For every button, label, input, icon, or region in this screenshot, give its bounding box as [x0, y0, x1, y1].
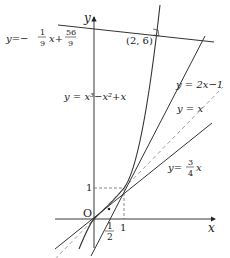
function-graph: y x O 1 1 1 2 (2, 6) y = x³−x²+x y = 2x−…: [0, 0, 230, 258]
label-cubic: y = x³−x²+x: [63, 91, 126, 102]
svg-text:1: 1: [40, 28, 45, 37]
svg-text:x: x: [196, 162, 202, 173]
svg-text:y=: y=: [167, 162, 182, 173]
label-identity: y = x: [176, 103, 203, 114]
svg-text:4: 4: [188, 169, 193, 178]
svg-text:y=−: y=−: [5, 33, 28, 44]
tick-half-den: 2: [107, 232, 113, 242]
point-half: [108, 208, 111, 211]
svg-text:9: 9: [68, 39, 73, 48]
tick-y-one: 1: [86, 182, 92, 193]
svg-text:x+: x+: [49, 33, 63, 44]
point-label: (2, 6): [126, 35, 153, 46]
label-normal: y=− 1 9 x+ 56 9: [5, 28, 76, 48]
tick-half-num: 1: [107, 221, 113, 231]
svg-text:9: 9: [40, 39, 45, 48]
label-tangent: y = 2x−1: [175, 79, 223, 90]
y-axis-label: y: [83, 11, 91, 25]
svg-text:3: 3: [188, 158, 193, 167]
x-axis-label: x: [208, 221, 215, 235]
tick-x-one: 1: [120, 222, 126, 233]
svg-text:56: 56: [66, 28, 76, 37]
label-three-quarter: y= 3 4 x: [167, 158, 202, 178]
line-three-quarter-x: [55, 123, 212, 249]
origin-label: O: [83, 207, 92, 220]
